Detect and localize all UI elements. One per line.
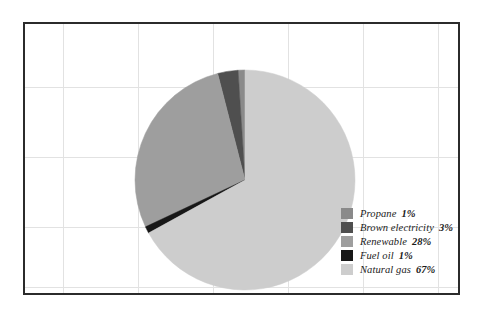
- legend-swatch-brown-electricity: [341, 222, 353, 233]
- legend-label: Renewable: [360, 236, 407, 247]
- legend-label: Fuel oil: [360, 250, 394, 261]
- legend-value: 3%: [439, 222, 453, 233]
- legend-value: 1%: [399, 250, 413, 261]
- chart-legend: Propane 1% Brown electricity 3% Renewabl…: [341, 207, 453, 276]
- legend-item[interactable]: Brown electricity 3%: [341, 221, 453, 234]
- legend-item[interactable]: Natural gas 67%: [341, 263, 453, 276]
- legend-value: 67%: [416, 264, 435, 275]
- legend-swatch-renewable: [341, 236, 353, 247]
- legend-item[interactable]: Renewable 28%: [341, 235, 453, 248]
- legend-item[interactable]: Fuel oil 1%: [341, 249, 453, 262]
- legend-item[interactable]: Propane 1%: [341, 207, 453, 220]
- pie-chart-screenshot: Propane 1% Brown electricity 3% Renewabl…: [0, 0, 482, 320]
- legend-label: Natural gas: [360, 264, 411, 275]
- legend-swatch-propane: [341, 208, 353, 219]
- legend-swatch-natural-gas: [341, 264, 353, 275]
- legend-value: 28%: [412, 236, 431, 247]
- legend-swatch-fuel-oil: [341, 250, 353, 261]
- legend-label: Brown electricity: [360, 222, 434, 233]
- pie-slice-group: [135, 70, 355, 290]
- chart-frame: Propane 1% Brown electricity 3% Renewabl…: [23, 22, 460, 295]
- legend-label: Propane: [360, 208, 396, 219]
- legend-value: 1%: [401, 208, 415, 219]
